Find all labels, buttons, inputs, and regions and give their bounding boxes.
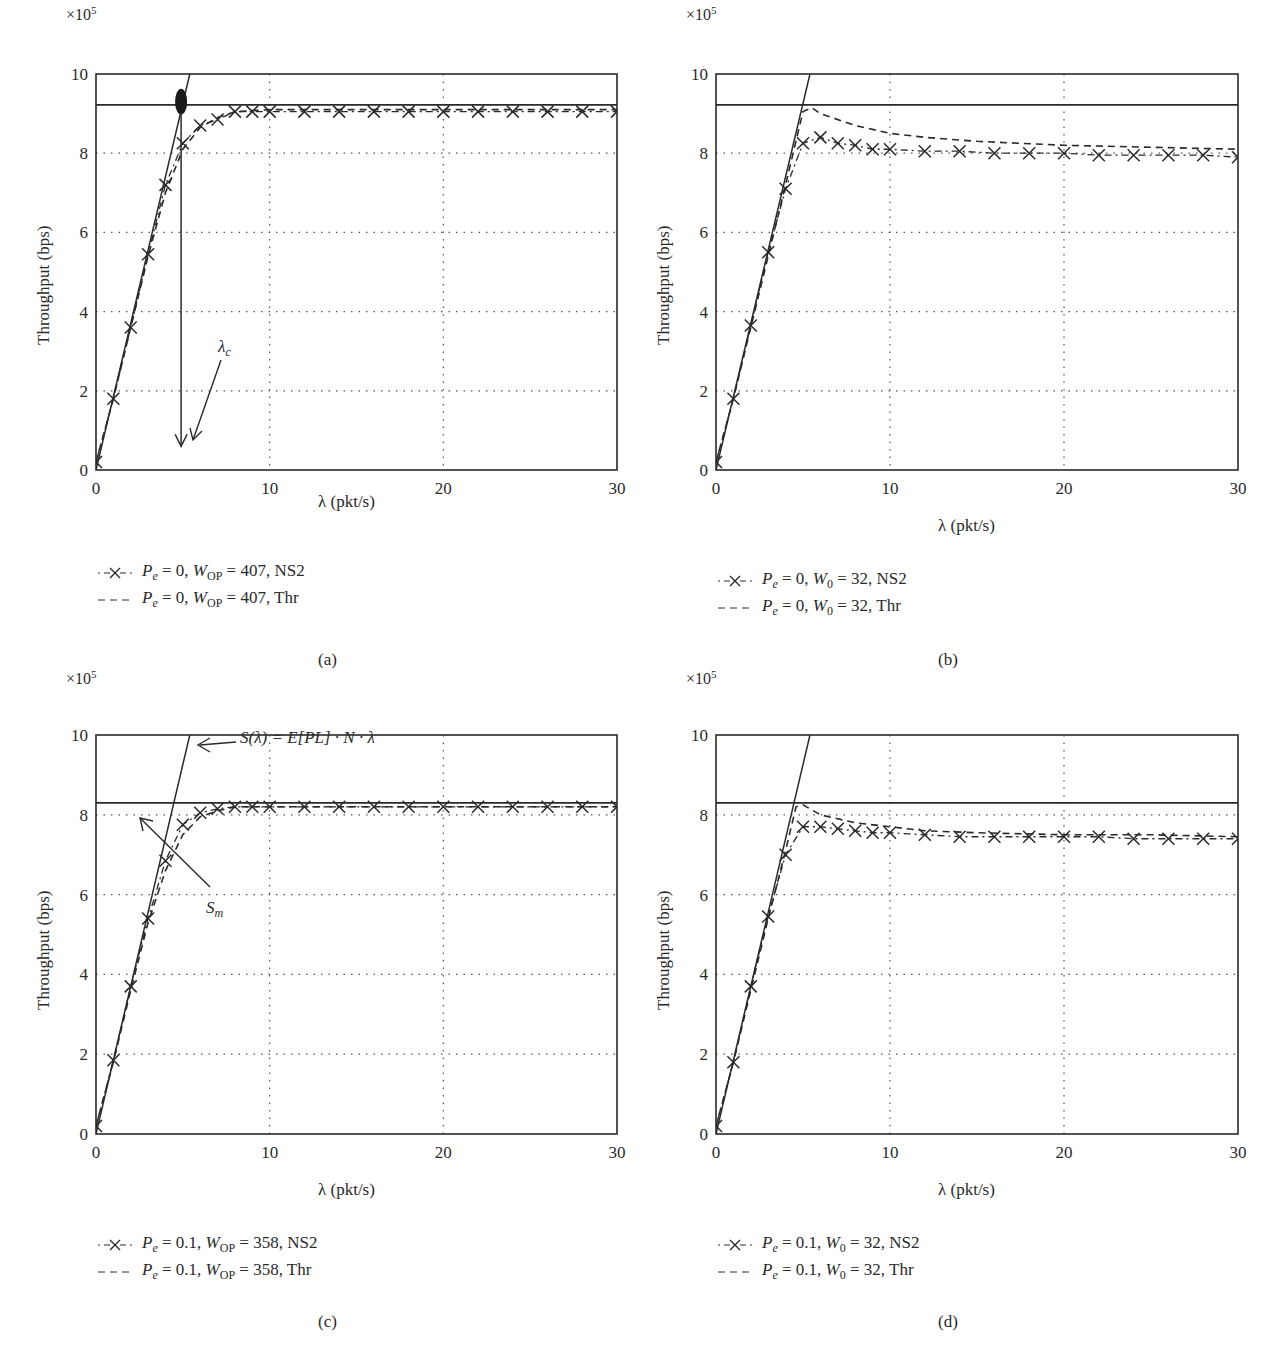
- x-marker-icon: [797, 137, 809, 149]
- legend-item-ns2: Pe = 0.1, WOP = 358, NS2: [96, 1232, 317, 1259]
- svg-text:20: 20: [1056, 1143, 1073, 1162]
- x-marker-icon: [745, 980, 757, 992]
- tick-labels: 01020300246810: [691, 726, 1247, 1162]
- grid-lines: [716, 735, 1238, 1134]
- chart-d-y-multiplier: ×105: [686, 668, 717, 688]
- svg-text:10: 10: [261, 479, 278, 498]
- svg-text:4: 4: [80, 965, 89, 984]
- lambda-c-arrow: [193, 360, 221, 440]
- thr-series-line: [716, 108, 1238, 462]
- tick-labels: 01020300246810: [71, 65, 626, 498]
- grid-lines: [716, 74, 1238, 470]
- sm-arrow: [141, 819, 210, 887]
- thr-series-line: [716, 805, 1238, 1126]
- plot-frame: [716, 74, 1238, 470]
- legend-item-ns2: Pe = 0, WOP = 407, NS2: [96, 560, 305, 587]
- svg-text:10: 10: [691, 726, 708, 745]
- critical-point-marker: [175, 89, 187, 115]
- svg-text:0: 0: [712, 1143, 721, 1162]
- x-marker-icon: [867, 143, 879, 155]
- grid-lines: [96, 74, 617, 470]
- svg-text:2: 2: [80, 382, 89, 401]
- svg-text:0: 0: [700, 1125, 709, 1144]
- ns2-series-line: [96, 112, 617, 462]
- svg-text:10: 10: [71, 726, 88, 745]
- chart-a-lambda-c-annotation: λc: [218, 337, 231, 360]
- dashed-line-icon: [96, 1262, 142, 1284]
- x-marker-icon: [159, 855, 171, 867]
- x-marker-icon: [1093, 149, 1105, 161]
- x-marker-icon: [814, 131, 826, 143]
- svg-text:4: 4: [700, 965, 709, 984]
- svg-text:8: 8: [700, 144, 709, 163]
- svg-text:20: 20: [1056, 479, 1073, 498]
- svg-text:10: 10: [71, 65, 88, 84]
- svg-text:0: 0: [92, 1143, 101, 1162]
- tick-labels: 01020300246810: [691, 65, 1247, 498]
- svg-text:0: 0: [80, 461, 89, 480]
- x-marker-icon: [177, 819, 189, 831]
- legend-item-ns2: Pe = 0.1, W0 = 32, NS2: [716, 1232, 920, 1259]
- chart-c-xlabel: λ (pkt/s): [318, 1180, 375, 1200]
- thr-series-line: [96, 807, 617, 1126]
- svg-text:30: 30: [1230, 479, 1247, 498]
- grid-lines: [96, 735, 617, 1134]
- dash-dot-x-marker-icon: [96, 1235, 142, 1257]
- svg-text:6: 6: [700, 223, 709, 242]
- svg-text:6: 6: [700, 886, 709, 905]
- chart-b-plot: 01020300246810: [620, 0, 1280, 500]
- ns2-series-line: [716, 827, 1238, 1126]
- svg-text:10: 10: [882, 479, 899, 498]
- legend-item-thr: Pe = 0, W0 = 32, Thr: [716, 595, 907, 622]
- x-marker-icon: [867, 827, 879, 839]
- svg-text:8: 8: [80, 144, 89, 163]
- legend-item-thr: Pe = 0, WOP = 407, Thr: [96, 587, 305, 614]
- svg-text:30: 30: [1230, 1143, 1247, 1162]
- chart-c-formula-annotation: S(λ) = E[PL] · N · λ: [240, 728, 375, 748]
- svg-text:10: 10: [691, 65, 708, 84]
- thr-series-line: [96, 110, 617, 462]
- svg-text:0: 0: [712, 479, 721, 498]
- x-marker-icon: [576, 106, 588, 118]
- dashed-line-icon: [96, 590, 142, 612]
- x-marker-icon: [780, 183, 792, 195]
- chart-c-legend: Pe = 0.1, WOP = 358, NS2 Pe = 0.1, WOP =…: [96, 1232, 317, 1287]
- chart-a-legend: Pe = 0, WOP = 407, NS2 Pe = 0, WOP = 407…: [96, 560, 305, 615]
- dash-dot-x-marker-icon: [716, 571, 762, 593]
- x-markers: [710, 131, 1244, 468]
- x-marker-icon: [125, 980, 137, 992]
- chart-d-plot: 01020300246810: [620, 665, 1280, 1165]
- tick-labels: 01020300246810: [71, 726, 626, 1162]
- svg-text:0: 0: [700, 461, 709, 480]
- svg-text:0: 0: [80, 1125, 89, 1144]
- plot-frame: [716, 735, 1238, 1134]
- dashed-line-icon: [716, 1262, 762, 1284]
- dash-dot-x-marker-icon: [96, 563, 142, 585]
- chart-b-caption: (b): [938, 650, 958, 670]
- x-marker-icon: [832, 137, 844, 149]
- chart-c-ylabel: Throughput (bps): [34, 891, 54, 1010]
- svg-text:4: 4: [700, 303, 709, 322]
- svg-text:10: 10: [261, 1143, 278, 1162]
- x-marker-icon: [1128, 149, 1140, 161]
- dash-dot-x-marker-icon: [716, 1235, 762, 1257]
- x-marker-icon: [177, 137, 189, 149]
- svg-text:6: 6: [80, 223, 89, 242]
- svg-text:20: 20: [435, 479, 452, 498]
- svg-text:10: 10: [882, 1143, 899, 1162]
- svg-text:2: 2: [700, 382, 709, 401]
- plot-frame: [96, 74, 617, 470]
- x-marker-icon: [194, 119, 206, 131]
- svg-text:20: 20: [435, 1143, 452, 1162]
- svg-text:6: 6: [80, 886, 89, 905]
- legend-item-ns2: Pe = 0, W0 = 32, NS2: [716, 568, 907, 595]
- chart-d-ylabel: Throughput (bps): [654, 891, 674, 1010]
- chart-d-legend: Pe = 0.1, W0 = 32, NS2 Pe = 0.1, W0 = 32…: [716, 1232, 920, 1287]
- ns2-series-line: [96, 807, 617, 1126]
- chart-a-plot: 01020300246810: [0, 0, 640, 500]
- chart-b-legend: Pe = 0, W0 = 32, NS2 Pe = 0, W0 = 32, Th…: [716, 568, 907, 623]
- svg-text:0: 0: [92, 479, 101, 498]
- legend-item-thr: Pe = 0.1, W0 = 32, Thr: [716, 1259, 920, 1286]
- svg-text:2: 2: [80, 1045, 89, 1064]
- svg-text:4: 4: [80, 303, 89, 322]
